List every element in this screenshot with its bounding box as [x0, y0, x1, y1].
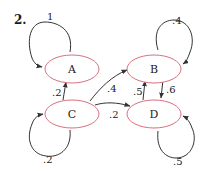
edge-label-c-d: .2 — [109, 109, 119, 120]
edge-label-c-c: .2 — [43, 154, 53, 165]
edge-label-c-a: .2 — [52, 87, 62, 98]
node-d: D — [127, 100, 181, 128]
edge-label-b-d: .6 — [166, 84, 176, 95]
edge-label-d-d: .5 — [173, 156, 183, 167]
edge-c-a — [63, 82, 66, 100]
edge-label-c-b: .4 — [107, 83, 117, 94]
markov-chain-diagram: 2. 1 .4 .2 .5 .2 .4 .2 .5 .6 A B C D — [0, 0, 206, 171]
node-c-label: C — [68, 108, 76, 121]
edge-label-b-b: .4 — [172, 15, 182, 26]
node-a: A — [45, 55, 99, 83]
node-a-label: A — [67, 63, 77, 76]
problem-number: 2. — [14, 13, 27, 27]
edge-d-b — [143, 81, 145, 100]
node-d-label: D — [150, 108, 159, 121]
edge-label-d-b: .5 — [133, 86, 143, 97]
edge-c-d — [95, 103, 130, 106]
edge-label-a-a: 1 — [47, 11, 53, 22]
node-b: B — [127, 55, 181, 83]
node-c: C — [45, 100, 99, 128]
node-b-label: B — [150, 63, 158, 76]
